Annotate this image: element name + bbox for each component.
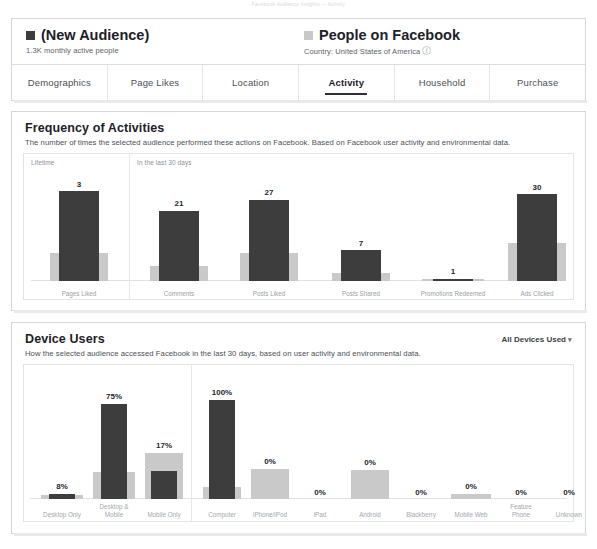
bar-value-label: 3 [77, 180, 81, 189]
bar-value-label: 100% [212, 388, 232, 397]
audience-bar [433, 279, 473, 281]
device-section-title: Device Users [25, 332, 572, 346]
light-square-swatch-icon [304, 31, 313, 40]
tab-household[interactable]: Household [395, 65, 491, 100]
tab-label: Purchase [517, 77, 558, 88]
tab-label: Location [232, 77, 269, 88]
bar-value-label: 0% [415, 488, 427, 497]
activity-group-ads-clicked[interactable]: 30 Ads Clicked [504, 154, 570, 299]
activity-group-comments[interactable]: 21 Comments [146, 154, 212, 299]
bar-value-label: 0% [563, 488, 575, 497]
bar-category-label: Posts Shared [342, 290, 380, 298]
audience-bar [159, 211, 199, 281]
device-group-computer[interactable]: 100% Computer [200, 365, 244, 521]
activity-section-description: The number of times the selected audienc… [25, 138, 572, 147]
tab-label: Demographics [28, 77, 91, 88]
tab-label: Household [419, 77, 466, 88]
device-group-mobile-only[interactable]: 17% Mobile Only [142, 365, 186, 521]
audience-header-card: (New Audience) 1.3K monthly active peopl… [11, 18, 586, 101]
bar-value-label: 1 [451, 267, 455, 276]
bar-category-label: Pages Liked [62, 290, 97, 298]
bar-value-label: 0% [364, 458, 376, 467]
device-users-card: Device Users How the selected audience a… [11, 322, 586, 534]
chevron-down-icon: ▾ [568, 336, 572, 343]
bar-category-label: Android [359, 511, 381, 519]
dark-square-swatch-icon [26, 31, 35, 40]
device-group-desktop-only[interactable]: 8% Desktop Only [38, 365, 86, 521]
bar-category-label: Desktop & Mobile [91, 503, 137, 518]
activity-group-posts-shared[interactable]: 7 Posts Shared [328, 154, 394, 299]
bar-category-label: Mobile Web [454, 511, 487, 519]
activity-section-title: Frequency of Activities [25, 121, 572, 135]
bar-category-label: Feature Phone [501, 503, 541, 518]
bar-category-label: Desktop Only [43, 511, 81, 519]
activity-section-head: Frequency of Activities The number of ti… [12, 112, 585, 153]
bar-value-label: 30 [533, 183, 542, 192]
activity-group-promotions-redeemed[interactable]: 1 Promotions Redeemed [418, 154, 488, 299]
benchmark-bar [451, 494, 491, 499]
info-icon[interactable]: i [422, 46, 431, 55]
all-devices-used-label: All Devices Used [502, 335, 566, 344]
audience-bar [209, 400, 235, 499]
device-group-iphone-ipod[interactable]: 0% iPhone/iPod [248, 365, 292, 521]
device-group-android[interactable]: 0% Android [348, 365, 392, 521]
bar-category-label: Comments [164, 290, 194, 298]
device-group-mobile-web[interactable]: 0% Mobile Web [448, 365, 494, 521]
tab-label: Page Likes [131, 77, 180, 88]
activity-group-posts-liked[interactable]: 27 Posts Liked [236, 154, 302, 299]
device-section-description: How the selected audience accessed Faceb… [25, 349, 572, 358]
audience-bar [249, 200, 289, 281]
bar-category-label: Blackberry [406, 511, 436, 519]
audience-name: (New Audience) [41, 27, 149, 43]
device-chart: 8% Desktop Only 75% Desktop & Mobile 17%… [23, 364, 574, 522]
bar-value-label: 0% [264, 457, 276, 466]
top-note: Facebook Audience Insights — Activity [0, 1, 597, 7]
frequency-of-activities-card: Frequency of Activities The number of ti… [11, 111, 586, 311]
audience-insights-page: Facebook Audience Insights — Activity (N… [0, 0, 597, 549]
benchmark-country: Country: United States of America [304, 47, 420, 56]
tab-purchase[interactable]: Purchase [490, 65, 585, 100]
benchmark-bar [351, 470, 389, 499]
bar-category-label: Posts Liked [253, 290, 286, 298]
bar-category-label: Mobile Only [147, 511, 180, 519]
legend-benchmark-title-row: People on Facebook [304, 27, 460, 43]
bar-value-label: 75% [106, 392, 122, 401]
device-group-unknown[interactable]: 0% Unknown [546, 365, 592, 521]
bar-value-label: 8% [56, 482, 68, 491]
device-group-feature-phone[interactable]: 0% Feature Phone [498, 365, 544, 521]
legend-audience-title-row: (New Audience) [26, 27, 149, 43]
section-tabs: Demographics Page Likes Location Activit… [12, 64, 585, 100]
legend-row: (New Audience) 1.3K monthly active peopl… [12, 19, 585, 65]
tab-page-likes[interactable]: Page Likes [108, 65, 204, 100]
all-devices-used-dropdown[interactable]: All Devices Used▾ [502, 335, 572, 344]
bar-value-label: 0% [314, 488, 326, 497]
tab-demographics[interactable]: Demographics [12, 65, 108, 100]
bar-category-label: Promotions Redeemed [421, 290, 485, 298]
benchmark-name: People on Facebook [319, 27, 460, 43]
benchmark-subtitle: Country: United States of Americai [304, 46, 460, 56]
bar-category-label: iPhone/iPod [253, 511, 287, 519]
active-tab-underline [325, 93, 367, 96]
device-group-desktop-and-mobile[interactable]: 75% Desktop & Mobile [90, 365, 138, 521]
bar-value-label: 21 [175, 199, 184, 208]
bar-category-label: Ads Clicked [520, 290, 553, 298]
bar-category-label: iPad [314, 511, 327, 519]
audience-bar [151, 471, 177, 499]
bar-category-label: Unknown [556, 511, 582, 519]
tab-label: Activity [329, 77, 365, 88]
device-group-blackberry[interactable]: 0% Blackberry [398, 365, 444, 521]
audience-subtitle: 1.3K monthly active people [26, 46, 149, 55]
audience-bar [59, 191, 99, 281]
audience-bar [341, 250, 381, 281]
bar-value-label: 27 [265, 188, 274, 197]
audience-bar [101, 404, 127, 499]
activity-chart: Lifetime In the last 30 days 3 Pages Lik… [23, 153, 574, 300]
audience-bar [517, 194, 557, 281]
tab-location[interactable]: Location [203, 65, 299, 100]
tab-activity[interactable]: Activity [299, 65, 395, 100]
bar-value-label: 0% [465, 482, 477, 491]
device-group-ipad[interactable]: 0% iPad [298, 365, 342, 521]
bar-value-label: 0% [515, 488, 527, 497]
activity-group-pages-liked[interactable]: 3 Pages Liked [46, 154, 112, 299]
audience-bar [49, 494, 75, 499]
